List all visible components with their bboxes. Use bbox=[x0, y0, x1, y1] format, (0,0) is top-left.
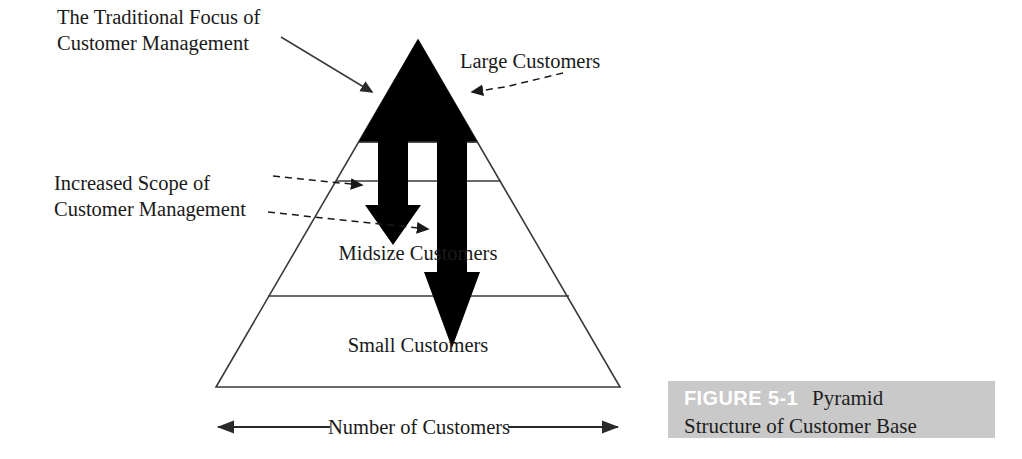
small-customers-label: Small Customers bbox=[348, 334, 489, 356]
figure-caption-line2: Structure of Customer Base bbox=[684, 413, 985, 441]
axis-label: Number of Customers bbox=[328, 416, 510, 438]
figure-container: The Traditional Focus of Customer Manage… bbox=[0, 0, 1022, 459]
large-customers-label: Large Customers bbox=[460, 50, 600, 73]
traditional-focus-leader bbox=[281, 37, 372, 92]
figure-title-part1: Pyramid bbox=[812, 386, 883, 410]
increased-scope-label-line2: Customer Management bbox=[54, 198, 246, 221]
midsize-customers-label: Midsize Customers bbox=[339, 242, 498, 264]
figure-caption: FIGURE 5-1Pyramid Structure of Customer … bbox=[668, 381, 995, 438]
large-customers-leader bbox=[472, 73, 563, 92]
figure-title-part2: Structure of Customer Base bbox=[684, 414, 917, 438]
traditional-focus-label-line2: Customer Management bbox=[57, 32, 249, 55]
figure-caption-line1: FIGURE 5-1Pyramid bbox=[684, 385, 985, 413]
figure-number: FIGURE 5-1 bbox=[684, 387, 798, 409]
traditional-focus-label-line1: The Traditional Focus of bbox=[57, 6, 260, 28]
increased-scope-label-line1: Increased Scope of bbox=[54, 172, 210, 195]
